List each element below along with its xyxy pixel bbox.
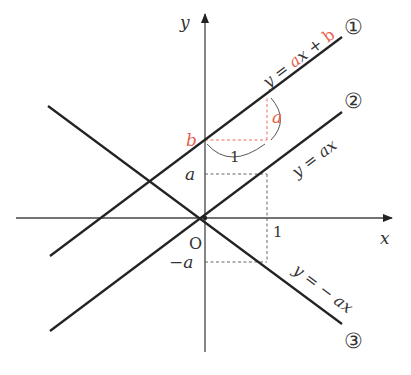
y-tick-a-label: a [185,164,195,184]
line-3-marker: ③ [344,329,363,353]
line-2-marker: ② [344,89,363,113]
rise-label: a [272,107,282,127]
line-2-equation: y = ax [287,135,340,182]
x-tick-1-label: 1 [273,223,283,241]
origin-label: O [189,234,202,253]
origin-point [203,216,207,220]
x-axis-label: x [380,228,390,248]
line-1-marker: ① [344,15,363,39]
y-axis-label: y [179,12,190,32]
y-tick-neg-a-label: −a [169,252,193,272]
run-label: 1 [230,148,240,166]
y-tick-b-label: b [186,130,197,150]
linear-functions-diagram: y x O 1 a −a b 1 a y = ax + b y = ax y =… [0,0,411,375]
line-1-equation: y = ax + b [258,25,338,92]
